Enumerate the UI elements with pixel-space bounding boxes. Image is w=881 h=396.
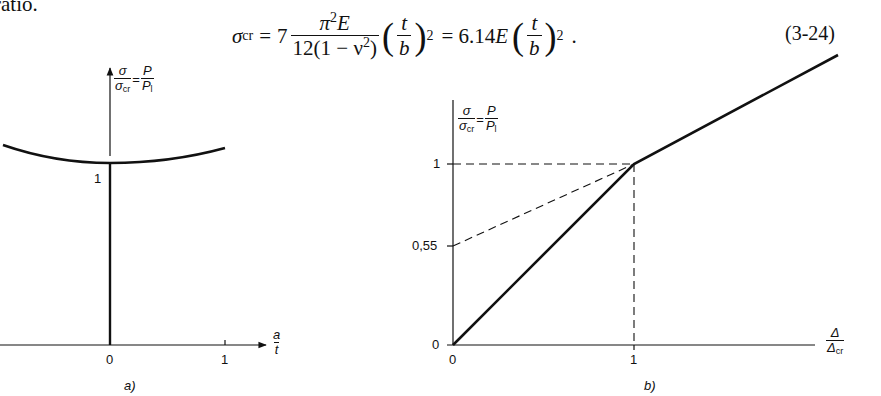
- figure-b-xtick-0: 0: [449, 352, 456, 367]
- figure-a-xlabel: at: [272, 328, 281, 357]
- figure-a-ylabel: σσcr = PPl: [114, 64, 154, 95]
- figure-a-caption: a): [124, 378, 136, 393]
- figure-b-xtick-1: 1: [630, 352, 637, 367]
- figure-graphics: [0, 0, 881, 396]
- figure-b-plot: [447, 55, 838, 350]
- figure-a-ytick-1: 1: [94, 171, 101, 186]
- figure-b-caption: b): [644, 378, 656, 393]
- figure-a-plot: [0, 68, 266, 345]
- figure-b-xlabel: ΔΔcr: [826, 326, 844, 357]
- figure-b-ylabel: σσcr = PPl: [458, 104, 498, 135]
- figure-a-xtick-0: 0: [106, 352, 113, 367]
- figure-b-ytick-0: 0: [432, 337, 439, 352]
- figure-a-xtick-1: 1: [221, 352, 228, 367]
- figure-b-ytick-055: 0,55: [412, 238, 437, 253]
- figure-b-ytick-1: 1: [433, 156, 440, 171]
